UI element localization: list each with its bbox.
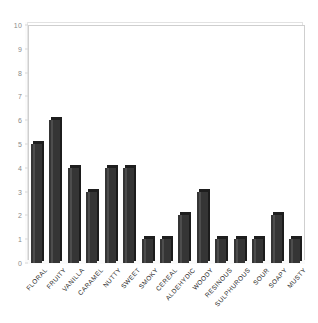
bar-chart: 012345678910 FLORALFRUITYVANILLACARAMELN… (0, 0, 318, 323)
y-axis-tick-mark (25, 48, 28, 49)
y-axis-tick-mark (25, 72, 28, 73)
x-axis-category-label: MUSTY (286, 267, 307, 290)
y-axis-tick-mark (25, 96, 28, 97)
y-axis-tick-mark (25, 25, 28, 26)
y-axis-tick-mark (25, 167, 28, 168)
x-axis-category-label: FLORAL (26, 267, 49, 292)
y-axis-tick-mark (25, 120, 28, 121)
y-axis-tick-mark (25, 239, 28, 240)
y-axis-tick-mark (25, 191, 28, 192)
x-axis: FLORALFRUITYVANILLACARAMELNUTTYSWEETSMOK… (0, 0, 318, 323)
x-axis-category-label: SOAPY (268, 267, 289, 289)
y-axis-tick-mark (25, 263, 28, 264)
x-axis-category-label: SULPHUROUS (214, 267, 252, 308)
y-axis-tick-mark (25, 215, 28, 216)
y-axis-tick-mark (25, 144, 28, 145)
